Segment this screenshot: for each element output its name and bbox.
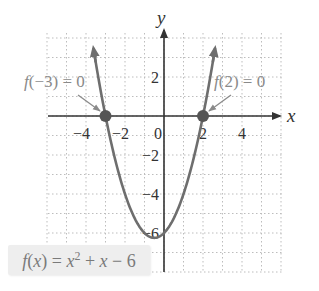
annotation-right-zero: f(2) = 0	[214, 72, 265, 91]
y-axis-label: y	[155, 7, 166, 28]
curve-arrow-right	[213, 48, 215, 62]
zero-point-right	[197, 110, 209, 122]
annotation-left-arrow	[78, 95, 100, 111]
y-tick-label: −2	[142, 147, 159, 164]
function-label: f(x) = x2 + x − 6	[8, 245, 150, 275]
curve-arrow-left	[93, 48, 95, 62]
x-tick-label: −2	[112, 125, 129, 142]
zero-point-left	[100, 110, 112, 122]
annotation-left-zero: ff(−3)(−3) = 0	[24, 72, 85, 91]
x-axis-label: x	[286, 105, 296, 126]
y-tick-label: 2	[151, 69, 159, 86]
y-tick-label: −4	[142, 186, 159, 203]
x-tick-label: −4	[73, 125, 90, 142]
grid-lines	[47, 33, 283, 272]
x-tick-label: 0	[154, 125, 162, 142]
annotation-right-arrow	[209, 95, 231, 111]
function-label-text: f(x) = x2 + x − 6	[22, 249, 135, 272]
x-tick-label: 4	[238, 125, 246, 142]
